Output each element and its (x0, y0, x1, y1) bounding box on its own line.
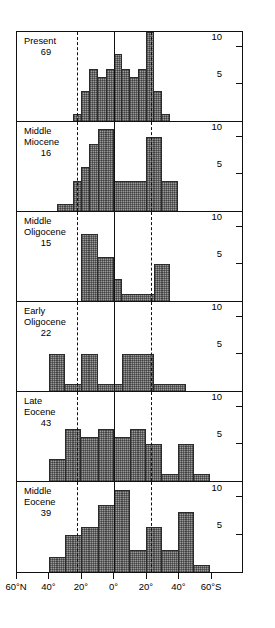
panel-caption-middle-miocene: Middle Miocene16 (24, 126, 68, 160)
y-tick-label: 5 (217, 160, 222, 170)
y-tick (236, 136, 242, 137)
bar (89, 437, 97, 482)
panel-middle-miocene: 510Middle Miocene16 (17, 122, 242, 212)
y-tick (236, 496, 242, 497)
panel-count: 39 (24, 508, 68, 519)
x-tick-label: 40° (41, 582, 55, 592)
bar (170, 181, 178, 211)
bar (65, 535, 73, 573)
bar (65, 429, 73, 481)
x-tick-label: 0° (109, 582, 118, 592)
x-tick (16, 573, 17, 579)
bar (162, 264, 170, 301)
reference-line-tropic-of-cancer (77, 32, 78, 121)
reference-line-equator (114, 302, 115, 391)
bar (186, 512, 194, 572)
bar (98, 77, 106, 122)
bar (130, 354, 138, 391)
y-tick-label: 5 (217, 70, 222, 80)
reference-line-tropic-of-capricorn (151, 392, 152, 481)
x-tick-label: 20° (74, 582, 88, 592)
bar (194, 565, 202, 573)
bar (49, 557, 57, 572)
reference-line-tropic-of-cancer (77, 212, 78, 301)
bar (130, 550, 138, 573)
bar (154, 444, 162, 481)
y-tick (236, 316, 242, 317)
bar (57, 354, 65, 391)
reference-line-tropic-of-capricorn (151, 122, 152, 211)
panel-label: Early Oligocene (24, 306, 66, 327)
reference-line-tropic-of-cancer (77, 482, 78, 572)
bar (106, 69, 114, 121)
bar (106, 257, 114, 302)
y-tick (236, 46, 242, 47)
panel-count: 16 (24, 148, 68, 159)
bar (122, 354, 130, 391)
bar (130, 77, 138, 122)
x-tick-label: 20° (139, 582, 153, 592)
x-tick-label: 60°S (201, 582, 222, 592)
bar (122, 437, 130, 482)
y-tick (236, 263, 242, 264)
bar (89, 69, 97, 121)
bar (162, 474, 170, 481)
bar (98, 257, 106, 302)
bar (122, 69, 130, 121)
bar (154, 137, 162, 211)
y-tick (236, 173, 242, 174)
bar (138, 429, 146, 481)
panel-label: Middle Eocene (24, 486, 56, 507)
y-tick-label: 10 (211, 213, 222, 223)
bar (194, 474, 202, 481)
bar (130, 429, 138, 481)
panel-count: 69 (24, 47, 68, 58)
panel-count: 43 (24, 418, 68, 429)
bar (98, 384, 106, 391)
reference-line-tropic-of-capricorn (151, 212, 152, 301)
bar (202, 565, 210, 573)
x-tick (146, 573, 147, 579)
panel-late-eocene: 510Late Eocene43 (17, 392, 242, 482)
y-tick (236, 406, 242, 407)
panel-caption-middle-eocene: Middle Eocene39 (24, 486, 68, 520)
bar (154, 527, 162, 572)
x-tick-label: 40° (171, 582, 185, 592)
y-tick-label: 10 (211, 393, 222, 403)
panel-present: 510Present69 (17, 32, 242, 122)
y-tick (236, 534, 242, 535)
bar (98, 129, 106, 211)
bar (154, 264, 162, 301)
y-tick-label: 5 (217, 520, 222, 530)
y-tick-label: 10 (211, 303, 222, 313)
bar (81, 234, 89, 301)
bar (49, 354, 57, 391)
bar (162, 114, 170, 121)
bar (65, 384, 73, 391)
bar (138, 181, 146, 211)
bar (89, 234, 97, 301)
x-tick (48, 573, 49, 579)
x-tick-label: 60°N (5, 582, 26, 592)
x-tick (178, 573, 179, 579)
bar (114, 490, 122, 573)
bar (170, 550, 178, 573)
panel-caption-late-eocene: Late Eocene43 (24, 396, 68, 430)
panel-caption-middle-oligocene: Middle Oligocene15 (24, 216, 68, 250)
bar (170, 384, 178, 391)
reference-line-equator (114, 212, 115, 301)
bar (89, 144, 97, 211)
bar (49, 459, 57, 481)
bar (57, 204, 65, 211)
y-tick-label: 5 (217, 340, 222, 350)
reference-line-tropic-of-cancer (77, 122, 78, 211)
y-tick-label: 10 (211, 483, 222, 493)
histogram-figure: 510Present69510Middle Miocene16510Middle… (0, 0, 275, 628)
bar (81, 527, 89, 572)
x-tick (113, 573, 114, 579)
bar (162, 550, 170, 573)
bar (138, 550, 146, 573)
panel-label: Middle Miocene (24, 126, 59, 147)
panel-stack: 510Present69510Middle Miocene16510Middle… (16, 31, 243, 573)
bar (89, 527, 97, 572)
